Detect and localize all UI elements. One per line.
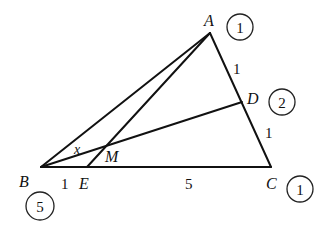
length-label-be: 1 <box>61 176 69 192</box>
point-label-a: A <box>203 12 214 29</box>
point-label-b: B <box>19 173 29 190</box>
triangle-diagram: A B C D E M x 1 1 1 5 1 2 1 5 <box>0 0 332 235</box>
point-label-e: E <box>78 175 89 192</box>
point-label-c: C <box>266 175 277 192</box>
mass-value-d: 2 <box>278 95 286 111</box>
segment-ac <box>210 33 271 167</box>
segment-ab <box>41 33 210 167</box>
length-label-dc: 1 <box>265 125 273 141</box>
mass-value-b: 5 <box>36 199 44 215</box>
angle-label-x: x <box>73 142 81 157</box>
point-label-d: D <box>246 90 259 107</box>
segment-bd <box>41 102 242 167</box>
point-label-m: M <box>104 148 120 165</box>
mass-value-c: 1 <box>296 182 304 198</box>
length-label-ad: 1 <box>233 61 241 77</box>
mass-value-a: 1 <box>236 20 244 36</box>
segment-ae <box>87 33 210 167</box>
length-label-ec: 5 <box>185 176 193 192</box>
